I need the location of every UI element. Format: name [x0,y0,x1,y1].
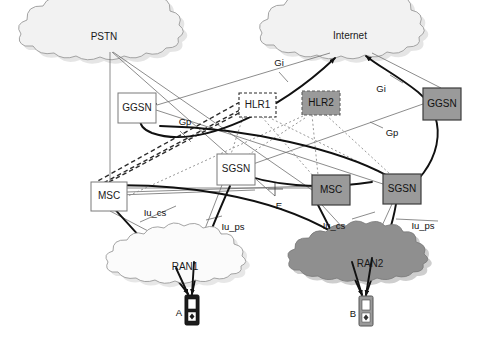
iface-label-iu-cs-left: Iu_cs [144,207,167,218]
ran2-cloud-shape [288,221,428,281]
iface-label-iu-cs-right: Iu_cs [323,220,346,231]
node-hlr2-label: HLR2 [308,97,334,108]
tick-iu-ps-left [206,216,222,220]
cloud-ran2: RAN2 [288,221,428,281]
ue-b-label: B [350,308,356,319]
node-ggsn-right[interactable]: GGSN [423,88,461,120]
pstn-cloud-label: PSTN [91,31,118,42]
node-msc-right-label: MSC [320,184,342,195]
network-diagram: PSTN Internet [0,0,487,341]
iface-label-iu-ps-right: Iu_ps [411,220,434,231]
iface-label-iu-ps-left: Iu_ps [221,221,244,232]
node-sgsn-left[interactable]: SGSN [217,154,255,185]
node-ggsn-left-label: GGSN [122,102,151,113]
node-msc-right[interactable]: MSC [312,175,350,205]
iface-label-gp-right: Gp [386,127,399,138]
cloud-internet: Internet [260,0,425,59]
link-hlr2-sgsn-right [326,115,390,174]
diagram-canvas: PSTN Internet [0,0,487,341]
node-hlr1[interactable]: HLR1 [239,93,276,117]
node-hlr1-label: HLR1 [245,99,271,110]
node-hlr2[interactable]: HLR2 [302,91,340,115]
ue-a-label: A [176,307,183,318]
ran1-cloud-shape [106,223,246,283]
cloud-pstn: PSTN [19,0,184,60]
cloud-ran1: RAN1 [106,223,246,283]
node-sgsn-right[interactable]: SGSN [383,174,421,204]
iface-label-e: E [276,200,282,211]
node-msc-left[interactable]: MSC [91,182,127,211]
path-sgsn-right-ggsn-left [160,126,388,176]
node-sgsn-left-label: SGSN [222,163,250,174]
tick-iu-cs-right [352,212,375,219]
terminal-ue-b[interactable]: B [350,296,373,326]
tick-gi-left [279,72,288,82]
node-msc-left-label: MSC [98,190,120,201]
internet-cloud-label: Internet [333,30,367,41]
ue-b-screen [362,300,370,310]
tick-gp-right [370,122,383,128]
ue-a-screen [188,299,196,309]
iface-label-gi-right: Gi [376,83,386,94]
link-hlr2-msc-right [312,115,318,175]
node-ggsn-left[interactable]: GGSN [118,93,156,123]
node-ggsn-right-label: GGSN [427,98,456,109]
terminal-ue-a[interactable]: A [176,295,199,325]
iface-label-gi-left: Gi [274,57,284,68]
thin-connections [91,52,441,253]
node-sgsn-right-label: SGSN [388,183,416,194]
iface-label-gp-left: Gp [179,116,192,127]
